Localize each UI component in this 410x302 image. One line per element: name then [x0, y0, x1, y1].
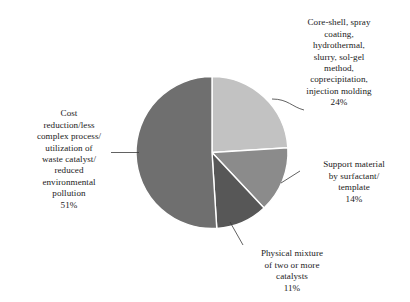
pie-slice-cost-reduction[interactable]	[136, 76, 217, 228]
pie-label-support-material: Support material by surfactant/ template…	[300, 148, 408, 216]
pie-label-core-shell-methods: Core-shell, spray coating, hydrothermal,…	[272, 6, 406, 120]
pie-label-physical-mixture-text: Physical mixture of two or more catalyst…	[261, 248, 323, 281]
pie-label-core-shell-percent: 24%	[272, 97, 406, 108]
pie-label-physical-mixture: Physical mixture of two or more catalyst…	[236, 237, 348, 302]
pie-label-support-material-text: Support material by surfactant/ template	[323, 159, 385, 192]
pie-label-physical-mixture-percent: 11%	[236, 283, 348, 294]
pie-chart-figure: Core-shell, spray coating, hydrothermal,…	[0, 0, 410, 302]
pie-label-cost-reduction: Cost reduction/less complex process/ uti…	[8, 97, 130, 222]
pie-label-support-material-percent: 14%	[300, 194, 408, 205]
pie-label-core-shell-text: Core-shell, spray coating, hydrothermal,…	[306, 17, 371, 95]
pie-label-cost-reduction-text: Cost reduction/less complex process/ uti…	[37, 108, 101, 198]
pie-label-cost-reduction-percent: 51%	[8, 200, 130, 211]
